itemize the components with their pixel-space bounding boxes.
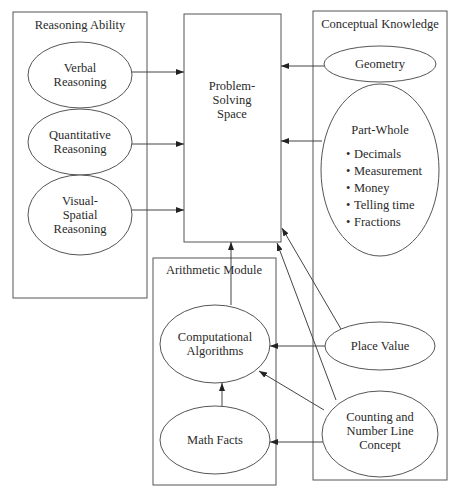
arrow-counting-to-computational [259, 371, 324, 410]
visual-spatial-line3: Reasoning [54, 222, 108, 236]
arithmetic-module-title: Arithmetic Module [166, 263, 263, 277]
verbal-reasoning-line2: Reasoning [54, 75, 108, 89]
computational-algorithms-node: Computational Algorithms [160, 305, 270, 383]
bullet-icon: • [346, 215, 350, 229]
conceptual-knowledge-group: Conceptual Knowledge Geometry Part-Whole… [313, 11, 447, 480]
place-value-label: Place Value [351, 339, 410, 353]
quantitative-reasoning-line1: Quantitative [49, 128, 111, 142]
problem-solving-line2: Solving [213, 93, 253, 107]
computational-line1: Computational [178, 330, 253, 344]
problem-solving-line3: Space [217, 107, 247, 121]
visual-spatial-line2: Spatial [63, 208, 98, 222]
part-whole-node: Part-Whole • Decimals • Measurement • Mo… [321, 84, 439, 256]
edges [132, 66, 341, 442]
arithmetic-module-group: Arithmetic Module Computational Algorith… [153, 258, 276, 485]
reasoning-ability-title: Reasoning Ability [35, 18, 126, 32]
cognitive-model-diagram: Reasoning Ability Verbal Reasoning Quant… [0, 0, 459, 497]
conceptual-knowledge-title: Conceptual Knowledge [321, 17, 439, 31]
bullet-icon: • [346, 147, 350, 161]
part-whole-item: Telling time [354, 198, 415, 212]
part-whole-item: Money [354, 181, 390, 195]
bullet-icon: • [346, 198, 350, 212]
counting-line3: Concept [359, 438, 401, 452]
visual-spatial-line1: Visual- [62, 194, 98, 208]
verbal-reasoning-node: Verbal Reasoning [28, 42, 132, 108]
geometry-node: Geometry [324, 46, 436, 82]
counting-line2: Number Line [347, 424, 414, 438]
part-whole-item: Fractions [354, 215, 401, 229]
math-facts-label: Math Facts [187, 433, 243, 447]
problem-solving-space-node: Problem- Solving Space [184, 14, 281, 242]
part-whole-label: Part-Whole [351, 123, 409, 137]
counting-number-line-node: Counting and Number Line Concept [322, 391, 438, 477]
arrow-counting-to-problem-solving [277, 243, 336, 400]
part-whole-item: Decimals [354, 147, 401, 161]
computational-line2: Algorithms [187, 344, 244, 358]
bullet-icon: • [346, 164, 350, 178]
problem-solving-space-box [184, 14, 281, 242]
visual-spatial-reasoning-node: Visual- Spatial Reasoning [28, 175, 132, 255]
problem-solving-line1: Problem- [209, 79, 256, 93]
counting-line1: Counting and [346, 410, 414, 424]
verbal-reasoning-line1: Verbal [64, 61, 97, 75]
math-facts-node: Math Facts [160, 406, 270, 474]
geometry-label: Geometry [355, 57, 406, 71]
reasoning-ability-group: Reasoning Ability Verbal Reasoning Quant… [13, 12, 147, 298]
bullet-icon: • [346, 181, 350, 195]
quantitative-reasoning-node: Quantitative Reasoning [28, 109, 132, 175]
place-value-node: Place Value [325, 322, 435, 370]
part-whole-item: Measurement [354, 164, 423, 178]
quantitative-reasoning-line2: Reasoning [54, 142, 108, 156]
